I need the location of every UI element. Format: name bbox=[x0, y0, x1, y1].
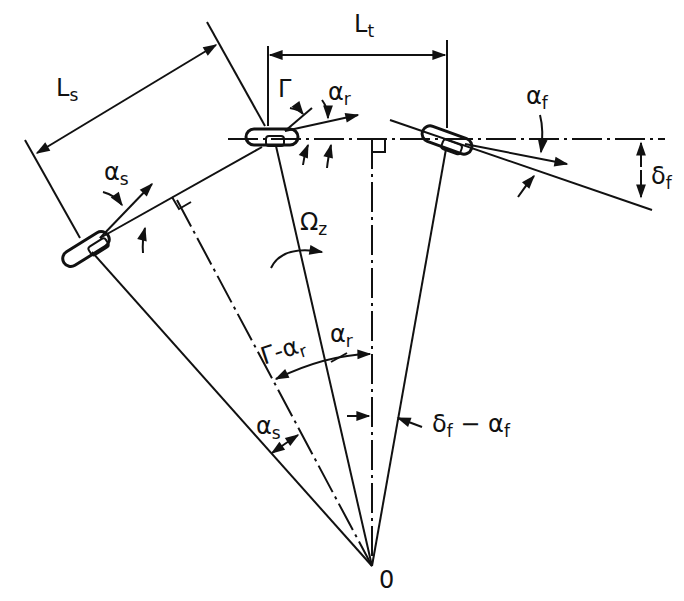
label-alpha-r-top: αr bbox=[328, 80, 351, 108]
label-delta-f-minus-alpha-f: δf − αf bbox=[432, 412, 510, 440]
vehicle-kinematics-diagram: Ls Lt Γ αr αf δf αs Ωz Γ-αr αr αs δf − α… bbox=[0, 0, 684, 601]
label-alpha-f: αf bbox=[526, 84, 548, 112]
label-omega-z: Ωz bbox=[300, 210, 327, 238]
label-gamma: Γ bbox=[278, 77, 291, 101]
label-delta-f: δf bbox=[651, 164, 672, 192]
label-alpha-r-bottom: αr bbox=[330, 322, 353, 350]
label-ls: Ls bbox=[56, 76, 78, 104]
label-lt: Lt bbox=[354, 12, 374, 40]
label-alpha-s-bottom: αs bbox=[256, 414, 281, 442]
label-alpha-s-top: αs bbox=[104, 160, 129, 188]
label-origin: 0 bbox=[379, 568, 394, 592]
